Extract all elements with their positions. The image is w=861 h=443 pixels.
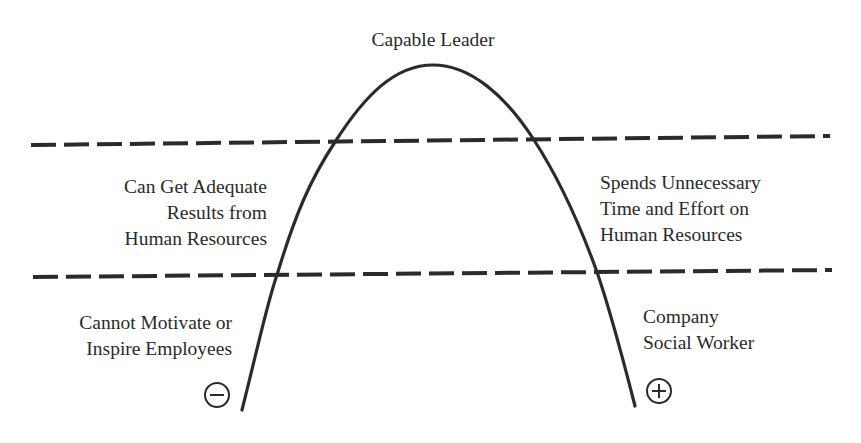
company-social-worker-label: Company Social Worker bbox=[643, 304, 843, 356]
lower-threshold-dashed-line bbox=[33, 270, 832, 277]
inverted-u-curve bbox=[242, 65, 635, 410]
upper-right-line-1: Spends Unnecessary bbox=[600, 170, 840, 196]
unnecessary-effort-label: Spends Unnecessary Time and Effort on Hu… bbox=[600, 170, 840, 248]
upper-left-line-1: Can Get Adequate bbox=[40, 174, 267, 200]
upper-right-line-2: Time and Effort on bbox=[600, 196, 840, 222]
positive-circle-icon bbox=[647, 379, 671, 403]
upper-left-line-3: Human Resources bbox=[40, 226, 267, 252]
upper-threshold-dashed-line bbox=[31, 136, 830, 145]
lower-right-line-2: Social Worker bbox=[643, 330, 843, 356]
lower-right-line-1: Company bbox=[643, 304, 843, 330]
upper-left-line-2: Results from bbox=[40, 200, 267, 226]
adequate-results-label: Can Get Adequate Results from Human Reso… bbox=[40, 174, 267, 252]
negative-circle-icon bbox=[205, 383, 229, 407]
upper-right-line-3: Human Resources bbox=[600, 222, 840, 248]
cannot-motivate-label: Cannot Motivate or Inspire Employees bbox=[10, 310, 232, 362]
lower-left-line-2: Inspire Employees bbox=[10, 336, 232, 362]
capable-leader-label: Capable Leader bbox=[333, 27, 533, 53]
top-label-text: Capable Leader bbox=[333, 27, 533, 53]
lower-left-line-1: Cannot Motivate or bbox=[10, 310, 232, 336]
